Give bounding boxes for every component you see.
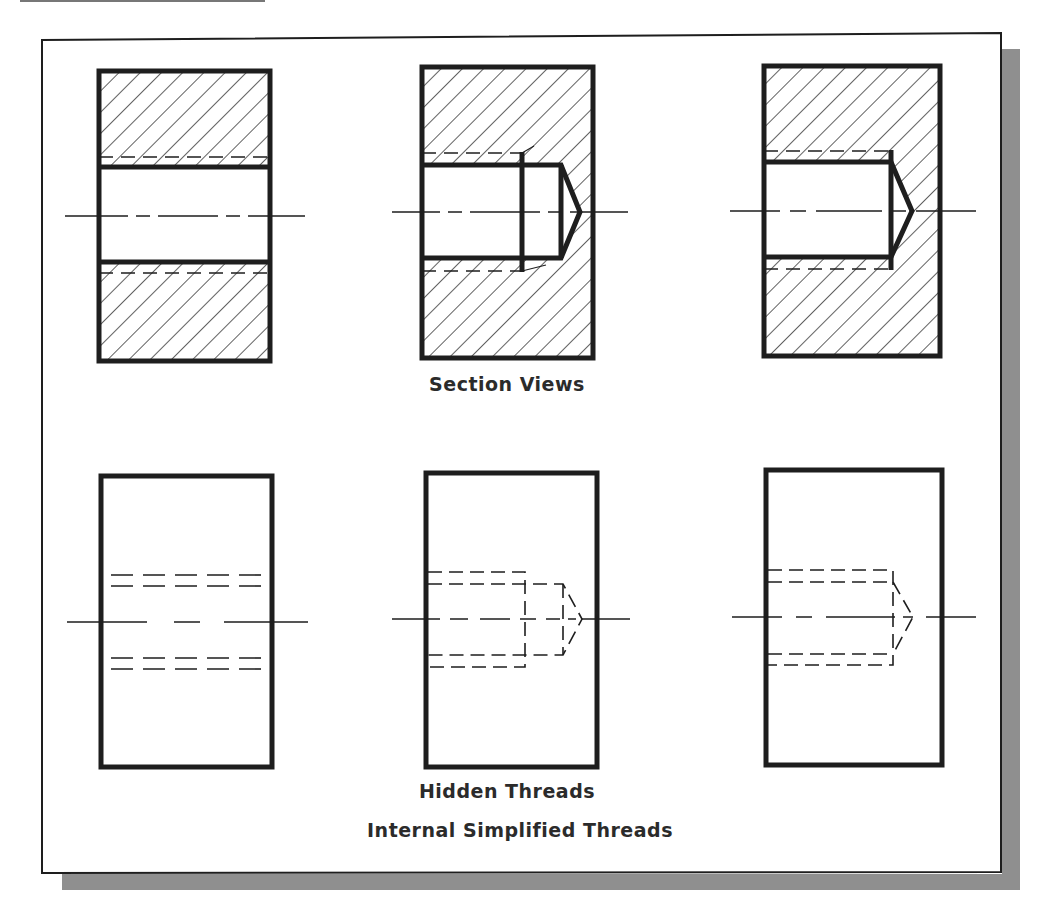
section-view-blind-hole-full	[730, 66, 976, 356]
thread-drawing	[0, 0, 1044, 913]
section-view-blind-hole-runout	[392, 67, 628, 358]
section-views-label: Section Views	[429, 373, 585, 395]
figure-caption: Internal Simplified Threads	[367, 819, 673, 841]
hidden-threads-label: Hidden Threads	[419, 780, 595, 802]
section-view-through-hole	[65, 71, 305, 361]
figure-stage: Section Views Hidden Threads Internal Si…	[0, 0, 1044, 913]
